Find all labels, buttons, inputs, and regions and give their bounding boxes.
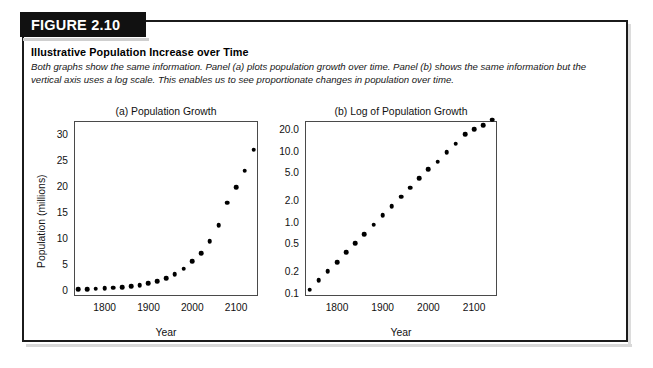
data-point xyxy=(216,223,221,228)
data-point xyxy=(344,250,349,255)
y-tick-label: 20.0 xyxy=(265,124,299,135)
data-point xyxy=(371,222,376,227)
y-tick-label: 5.0 xyxy=(265,166,299,177)
data-point xyxy=(362,232,367,237)
y-tick-label: 2.0 xyxy=(265,195,299,206)
data-point xyxy=(208,239,213,244)
data-point xyxy=(137,283,142,288)
panel-a-title: (a) Population Growth xyxy=(74,106,258,117)
panel-b-plot-area xyxy=(305,121,497,296)
panel-b-title: (b) Log of Population Growth xyxy=(305,106,497,117)
x-tick-label: 2000 xyxy=(417,302,440,313)
data-point xyxy=(408,185,413,190)
panel-a-y-axis-label: Population (millions) xyxy=(36,174,47,268)
panels-area: (a) Population Growth 051015202530 18001… xyxy=(0,0,653,368)
data-point xyxy=(444,150,449,155)
y-tick-label: 30 xyxy=(34,128,68,139)
data-point xyxy=(172,272,177,277)
x-tick-label: 1900 xyxy=(137,302,160,313)
y-tick-label: 0.1 xyxy=(265,287,299,298)
y-tick-label: 0 xyxy=(34,284,68,295)
data-point xyxy=(426,167,431,172)
panel-b-x-axis-label: Year xyxy=(305,327,497,338)
data-point xyxy=(472,127,477,132)
y-tick-label: 1.0 xyxy=(265,216,299,227)
x-tick-label: 2000 xyxy=(181,302,204,313)
data-point xyxy=(199,251,204,256)
panel-a-x-axis-label: Year xyxy=(74,327,258,338)
data-point xyxy=(111,286,116,291)
data-point xyxy=(316,278,321,283)
x-tick-label: 2100 xyxy=(225,302,248,313)
data-point xyxy=(190,259,195,264)
data-point xyxy=(234,185,239,190)
panel-a-plot-area xyxy=(74,121,258,296)
x-tick-label: 1800 xyxy=(326,302,349,313)
y-tick-label: 25 xyxy=(34,154,68,165)
data-point xyxy=(120,285,125,290)
data-point xyxy=(390,204,395,209)
data-point xyxy=(326,269,331,274)
data-point xyxy=(454,142,459,147)
data-point xyxy=(164,276,169,281)
data-point xyxy=(463,132,468,137)
data-point xyxy=(335,260,340,265)
data-point xyxy=(129,284,134,289)
data-point xyxy=(435,159,440,164)
y-tick-label: 10.0 xyxy=(265,145,299,156)
data-point xyxy=(243,169,248,174)
data-point xyxy=(380,213,385,218)
data-point xyxy=(353,241,358,246)
data-point xyxy=(181,266,186,271)
data-point xyxy=(481,123,486,128)
data-point xyxy=(94,286,99,291)
data-point xyxy=(225,200,230,205)
figure-container: FIGURE 2.10 Illustrative Population Incr… xyxy=(0,0,653,368)
x-tick-label: 2100 xyxy=(463,302,486,313)
data-point xyxy=(251,147,256,152)
data-point xyxy=(155,279,160,284)
x-tick-label: 1800 xyxy=(93,302,116,313)
y-tick-label: 0.5 xyxy=(265,238,299,249)
x-tick-label: 1900 xyxy=(371,302,394,313)
data-point xyxy=(102,286,107,291)
data-point xyxy=(76,287,81,292)
data-point xyxy=(146,281,151,286)
data-point xyxy=(490,118,495,123)
data-point xyxy=(85,287,90,292)
y-tick-label: 0.2 xyxy=(265,266,299,277)
data-point xyxy=(417,176,422,181)
data-point xyxy=(307,288,312,293)
data-point xyxy=(399,195,404,200)
